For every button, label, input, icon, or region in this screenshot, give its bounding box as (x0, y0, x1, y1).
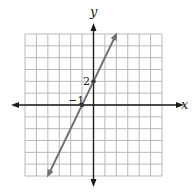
coordinate-graph: y x 2 −1 (0, 0, 195, 193)
axes (11, 23, 184, 187)
y-axis-up-arrow-icon (91, 23, 97, 31)
x-axis-label: x (181, 97, 189, 112)
x-intercept-label: −1 (68, 94, 84, 107)
y-axis-label: y (89, 4, 98, 19)
intercept-point (91, 79, 95, 83)
y-intercept-label: 2 (83, 75, 90, 88)
x-axis-left-arrow-icon (11, 102, 19, 108)
y-axis-down-arrow-icon (91, 179, 97, 187)
